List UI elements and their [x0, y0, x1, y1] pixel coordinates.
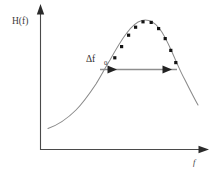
bandwidth-left-arrow-icon: [108, 65, 118, 73]
data-marker: [120, 45, 123, 48]
data-marker: [113, 56, 116, 59]
data-marker: [157, 27, 160, 30]
bandwidth-right-arrow-icon: [163, 65, 173, 73]
data-marker: [164, 37, 167, 40]
y-axis-arrow-icon: [37, 4, 44, 15]
data-marker: [127, 34, 130, 37]
frequency-response-figure: H(f) f Δf 0: [0, 0, 222, 171]
frequency-response-curve: [48, 20, 198, 128]
x-axis-label: f: [193, 157, 197, 167]
data-marker: [174, 61, 177, 64]
bandwidth-label-subscript: 0: [104, 59, 108, 66]
x-axis-arrow-icon: [199, 146, 210, 153]
data-marker: [169, 49, 172, 52]
bandwidth-label: Δf 0: [86, 54, 108, 66]
data-marker: [134, 26, 137, 29]
y-axis-label: H(f): [12, 16, 28, 27]
data-marker: [141, 20, 144, 23]
bandwidth-label-main: Δf: [86, 54, 96, 64]
figure-canvas: H(f) f Δf 0: [0, 0, 222, 171]
data-marker: [150, 21, 153, 24]
